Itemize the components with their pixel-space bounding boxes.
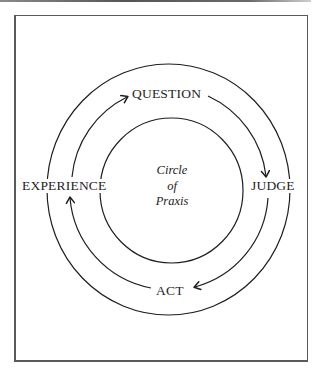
arrow-judge-to-act [195,198,268,287]
stage-experience: EXPERIENCE [21,179,108,193]
stage-act: ACT [155,284,185,298]
stage-judge: JUDGE [250,179,296,193]
title-line-2: of [132,179,212,195]
diagram-title: Circle of Praxis [132,163,212,210]
arrow-act-to-experience [70,198,151,288]
arrow-experience-to-question [72,97,127,177]
title-line-3: Praxis [132,194,212,210]
arrow-question-to-judge [208,96,266,176]
stage-question: QUESTION [131,87,202,101]
title-line-1: Circle [132,163,212,179]
